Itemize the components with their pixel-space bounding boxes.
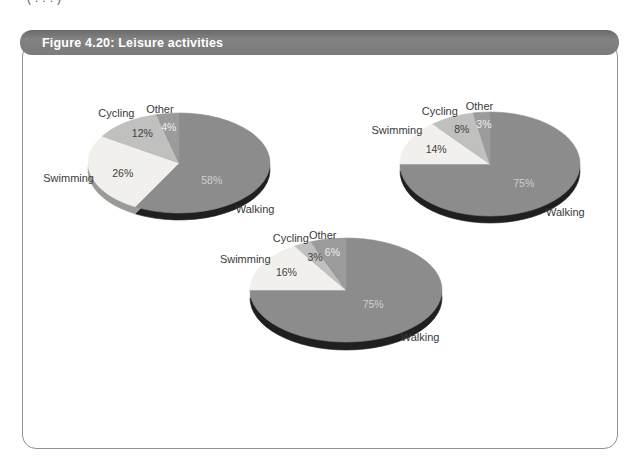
pie1-label-other: Other: [146, 103, 174, 115]
pie2-pct-cycling: 8%: [454, 123, 469, 135]
pie3-pct-cycling: 3%: [307, 251, 322, 263]
pie3-pct-other: 6%: [325, 246, 340, 258]
pie3-pct-swimming: 16%: [276, 266, 297, 278]
pie-chart-3: 75%Walking16%Swimming3%Cycling6%Other: [220, 229, 442, 350]
pie2-pct-walking: 75%: [513, 177, 534, 189]
pie1-pct-swimming: 26%: [112, 167, 133, 179]
pie2-label-swimming: Swimming: [372, 124, 423, 136]
pie-chart-2: 75%Walking14%Swimming8%Cycling3%Other: [372, 100, 585, 223]
pie3-pct-walking: 75%: [363, 298, 384, 310]
pie-charts-canvas: 58%Walking26%Swimming12%Cycling4%Other75…: [0, 0, 642, 470]
pie1-label-swimming: Swimming: [43, 172, 94, 184]
pie2-label-cycling: Cycling: [422, 105, 458, 117]
pie3-label-other: Other: [309, 229, 337, 241]
pie-chart-1: 58%Walking26%Swimming12%Cycling4%Other: [43, 103, 274, 220]
pie2-label-other: Other: [466, 100, 494, 112]
pie1-label-cycling: Cycling: [98, 107, 134, 119]
pie2-pct-other: 3%: [476, 118, 491, 130]
pie3-label-cycling: Cycling: [273, 232, 309, 244]
pie1-pct-other: 4%: [161, 121, 176, 133]
pie1-pct-cycling: 12%: [132, 127, 153, 139]
pie1-pct-walking: 58%: [201, 174, 222, 186]
pie1-label-walking: Walking: [236, 203, 275, 215]
pie2-pct-swimming: 14%: [426, 143, 447, 155]
pie2-label-walking: Walking: [546, 206, 585, 218]
pie3-label-walking: Walking: [401, 331, 440, 343]
pie3-label-swimming: Swimming: [220, 253, 271, 265]
